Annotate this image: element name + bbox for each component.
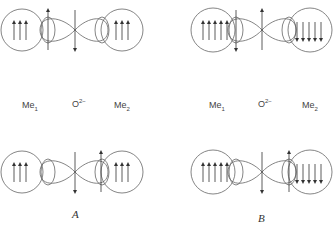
panel-bottom-right: [191, 150, 332, 194]
label-me1-right: Me1: [209, 100, 225, 112]
label-o-right: O2−: [258, 98, 272, 109]
spins-bottom-left: [14, 152, 128, 192]
panel-top-right: [191, 8, 332, 52]
spins-bottom-right: [203, 152, 321, 192]
label-me1-left: Me1: [22, 100, 38, 112]
p-orbital-lobes: [40, 19, 108, 42]
spins-top-right: [203, 10, 321, 50]
me1-orbital: [1, 9, 43, 51]
label-me2-left: Me2: [114, 100, 130, 112]
caption-a: A: [72, 208, 79, 220]
caption-b: B: [258, 212, 265, 224]
spins-top-left: [14, 10, 128, 50]
label-me2-right: Me2: [302, 100, 318, 112]
label-o-left: O2−: [72, 98, 86, 109]
superexchange-diagram: [0, 0, 335, 229]
